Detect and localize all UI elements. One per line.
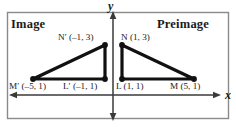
point-label-l-prime: L′ (–1, 1) — [63, 82, 97, 91]
point-label-l: L (1, 1) — [116, 82, 143, 91]
y-axis-arrow-down — [110, 113, 117, 121]
preimage-triangle — [122, 45, 194, 79]
image-triangle — [33, 45, 105, 79]
y-axis-label: y — [108, 0, 113, 12]
x-axis-arrow-left — [9, 92, 17, 99]
vertex-n — [119, 42, 125, 48]
vertex-l-prime — [102, 76, 108, 82]
x-axis-arrow-right — [213, 92, 221, 99]
panel-title-preimage: Preimage — [157, 18, 209, 31]
point-label-m: M (5, 1) — [170, 82, 200, 91]
figure-container: Image Preimage y x N′ (–1, 3) M′ (–5, 1)… — [0, 0, 236, 127]
vertex-n-prime — [102, 42, 108, 48]
point-label-n-prime: N′ (–1, 3) — [58, 33, 93, 42]
point-label-m-prime: M′ (–5, 1) — [9, 82, 46, 91]
panel-title-image: Image — [11, 18, 45, 31]
x-axis-label: x — [225, 89, 231, 101]
point-label-n: N (1, 3) — [121, 33, 150, 42]
